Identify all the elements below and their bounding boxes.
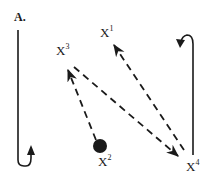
node-label-x3: X3 [56, 44, 69, 57]
node-x1-sup: 1 [109, 24, 113, 33]
node-x2-sup: 2 [107, 153, 111, 162]
x2-node-dot [93, 139, 107, 153]
node-x3-base: X [56, 43, 65, 58]
edge-x4-x1 [114, 45, 184, 150]
node-label-x1: X1 [100, 26, 113, 39]
arrowhead-icon [27, 145, 35, 155]
node-x2-base: X [98, 154, 107, 169]
panel-label: A. [14, 10, 26, 25]
node-x1-base: X [100, 25, 109, 40]
right-hook-arrow [176, 35, 193, 155]
arrowhead-icon [176, 39, 185, 48]
node-x3-sup: 3 [65, 42, 69, 51]
node-label-x4: X4 [186, 160, 199, 173]
node-x4-sup: 4 [195, 158, 199, 167]
node-x4-base: X [186, 159, 195, 174]
node-label-x2: X2 [98, 155, 111, 168]
left-hook-arrow [18, 30, 35, 166]
edge-x2-x3 [68, 70, 96, 140]
diagram-canvas: A. X1 X3 X2 X4 [0, 0, 212, 184]
edge-x3-x4 [74, 67, 178, 156]
